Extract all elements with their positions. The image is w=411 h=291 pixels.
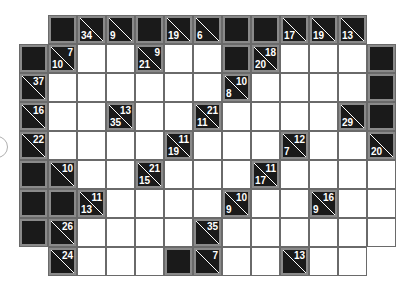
entry-cell[interactable] bbox=[280, 160, 309, 189]
clue-cell: 710 bbox=[48, 44, 77, 73]
blocked-cell bbox=[222, 44, 251, 73]
entry-cell[interactable] bbox=[222, 218, 251, 247]
entry-cell[interactable] bbox=[77, 73, 106, 102]
down-sum: 9 bbox=[226, 205, 232, 215]
entry-cell[interactable] bbox=[106, 218, 135, 247]
entry-cell[interactable] bbox=[309, 218, 338, 247]
entry-cell[interactable] bbox=[77, 247, 106, 276]
entry-cell[interactable] bbox=[77, 44, 106, 73]
entry-cell[interactable] bbox=[251, 73, 280, 102]
entry-cell[interactable] bbox=[251, 218, 280, 247]
clue-cell: 1335 bbox=[106, 102, 135, 131]
blocked-cell bbox=[48, 189, 77, 218]
entry-cell[interactable] bbox=[48, 131, 77, 160]
entry-cell[interactable] bbox=[309, 160, 338, 189]
down-sum: 19 bbox=[168, 147, 179, 157]
entry-cell[interactable] bbox=[222, 102, 251, 131]
entry-cell[interactable] bbox=[367, 218, 396, 247]
entry-cell[interactable] bbox=[135, 131, 164, 160]
clue-cell: 37 bbox=[19, 73, 48, 102]
clue-fill: 127 bbox=[283, 134, 306, 157]
clue-fill: 1113 bbox=[80, 192, 103, 215]
entry-cell[interactable] bbox=[106, 131, 135, 160]
entry-cell[interactable] bbox=[164, 73, 193, 102]
down-sum: 19 bbox=[313, 31, 324, 41]
entry-cell[interactable] bbox=[164, 189, 193, 218]
entry-cell[interactable] bbox=[77, 131, 106, 160]
entry-cell[interactable] bbox=[193, 73, 222, 102]
entry-cell[interactable] bbox=[77, 102, 106, 131]
entry-cell[interactable] bbox=[164, 160, 193, 189]
down-sum: 19 bbox=[168, 31, 179, 41]
entry-cell[interactable] bbox=[106, 44, 135, 73]
entry-cell[interactable] bbox=[135, 102, 164, 131]
entry-cell[interactable] bbox=[309, 102, 338, 131]
entry-cell[interactable] bbox=[48, 73, 77, 102]
across-sum: 24 bbox=[62, 251, 73, 261]
entry-cell[interactable] bbox=[251, 189, 280, 218]
entry-cell[interactable] bbox=[77, 160, 106, 189]
entry-cell[interactable] bbox=[367, 189, 396, 218]
entry-cell[interactable] bbox=[164, 218, 193, 247]
entry-cell[interactable] bbox=[338, 73, 367, 102]
entry-cell[interactable] bbox=[338, 131, 367, 160]
clue-cell: 13 bbox=[280, 247, 309, 276]
entry-cell[interactable] bbox=[309, 73, 338, 102]
across-sum: 16 bbox=[323, 193, 334, 203]
entry-cell[interactable] bbox=[280, 102, 309, 131]
clue-cell: 127 bbox=[280, 131, 309, 160]
entry-cell[interactable] bbox=[222, 247, 251, 276]
clue-fill: 1335 bbox=[109, 105, 132, 128]
clue-fill: 29 bbox=[341, 105, 364, 128]
clue-cell: 1820 bbox=[251, 44, 280, 73]
entry-cell[interactable] bbox=[77, 218, 106, 247]
entry-cell[interactable] bbox=[135, 189, 164, 218]
entry-cell[interactable] bbox=[338, 44, 367, 73]
entry-cell[interactable] bbox=[280, 73, 309, 102]
entry-cell[interactable] bbox=[251, 247, 280, 276]
entry-cell[interactable] bbox=[193, 131, 222, 160]
entry-cell[interactable] bbox=[48, 102, 77, 131]
blocked-fill bbox=[51, 18, 74, 41]
across-sum: 26 bbox=[62, 222, 73, 232]
entry-cell[interactable] bbox=[280, 189, 309, 218]
entry-cell[interactable] bbox=[309, 44, 338, 73]
clue-fill: 169 bbox=[312, 192, 335, 215]
entry-cell[interactable] bbox=[251, 102, 280, 131]
entry-cell[interactable] bbox=[338, 189, 367, 218]
entry-cell[interactable] bbox=[280, 218, 309, 247]
entry-cell[interactable] bbox=[164, 102, 193, 131]
entry-cell[interactable] bbox=[251, 131, 280, 160]
entry-cell[interactable] bbox=[135, 73, 164, 102]
entry-cell[interactable] bbox=[135, 247, 164, 276]
clue-fill: 24 bbox=[51, 250, 74, 273]
entry-cell[interactable] bbox=[193, 160, 222, 189]
entry-cell[interactable] bbox=[338, 218, 367, 247]
entry-cell[interactable] bbox=[309, 131, 338, 160]
clue-cell: 24 bbox=[48, 247, 77, 276]
entry-cell[interactable] bbox=[338, 160, 367, 189]
entry-cell[interactable] bbox=[193, 44, 222, 73]
entry-cell[interactable] bbox=[309, 247, 338, 276]
entry-cell[interactable] bbox=[135, 218, 164, 247]
entry-cell[interactable] bbox=[193, 189, 222, 218]
clue-cell: 26 bbox=[48, 218, 77, 247]
entry-cell[interactable] bbox=[106, 247, 135, 276]
entry-cell[interactable] bbox=[338, 247, 367, 276]
entry-cell[interactable] bbox=[106, 73, 135, 102]
blocked-fill bbox=[22, 192, 45, 215]
down-sum: 9 bbox=[110, 31, 116, 41]
clue-fill: 13 bbox=[283, 250, 306, 273]
entry-cell[interactable] bbox=[106, 189, 135, 218]
entry-cell[interactable] bbox=[367, 160, 396, 189]
down-sum: 9 bbox=[313, 205, 319, 215]
entry-cell[interactable] bbox=[106, 160, 135, 189]
blocked-fill bbox=[370, 47, 393, 70]
entry-cell[interactable] bbox=[222, 160, 251, 189]
entry-cell[interactable] bbox=[164, 44, 193, 73]
blocked-fill bbox=[22, 47, 45, 70]
entry-cell[interactable] bbox=[222, 131, 251, 160]
blocked-fill bbox=[167, 250, 190, 273]
down-sum: 34 bbox=[81, 31, 92, 41]
entry-cell[interactable] bbox=[280, 44, 309, 73]
